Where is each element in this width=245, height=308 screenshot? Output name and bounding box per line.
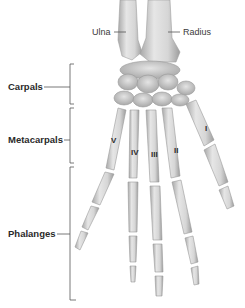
- metacarpal-numeral-ii: II: [174, 146, 178, 155]
- forearm-bones: [118, 0, 180, 62]
- carpal-bones: [114, 61, 195, 107]
- metacarpal-numeral-iv: IV: [131, 148, 139, 157]
- carpals-bracket: [70, 64, 74, 104]
- phalanges-bracket: [70, 167, 76, 300]
- hand-skeleton-illustration: [0, 0, 245, 308]
- radius-label: Radius: [183, 27, 211, 37]
- hand-bones-diagram: Ulna Radius Carpals Metacarpals Phalange…: [0, 0, 245, 308]
- phalanges-label: Phalanges: [8, 229, 56, 239]
- metacarpal-numeral-v: V: [111, 136, 116, 145]
- metacarpal-numeral-iii: III: [151, 150, 158, 159]
- metacarpals-label: Metacarpals: [8, 135, 63, 145]
- metacarpal-numeral-i: I: [205, 124, 207, 133]
- metacarpals-bracket: [70, 108, 74, 163]
- finger-bones: [75, 100, 234, 296]
- ulna-label: Ulna: [92, 27, 111, 37]
- carpals-label: Carpals: [8, 82, 43, 92]
